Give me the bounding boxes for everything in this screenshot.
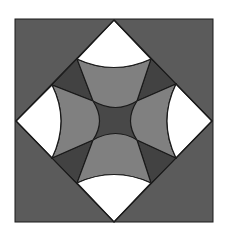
quilt-block-svg [0, 0, 226, 237]
quilt-block-figure [0, 0, 226, 237]
